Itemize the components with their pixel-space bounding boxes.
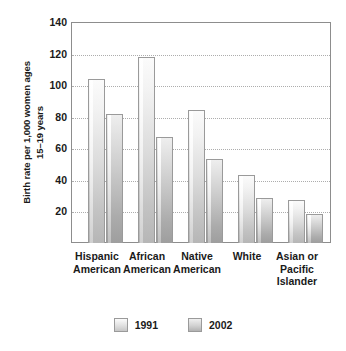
bar-chart: Birth rate per 1,000 women ages 15–19 ye… — [0, 0, 346, 351]
bar-asian-or-pacific-islander-1991[interactable] — [288, 200, 305, 243]
legend-item-1991[interactable]: 1991 — [114, 318, 158, 332]
x-label-line: American — [159, 263, 235, 276]
y-tick-60: 60 — [27, 143, 67, 154]
bar-asian-or-pacific-islander-2002[interactable] — [306, 214, 323, 243]
y-tick-100: 100 — [27, 80, 67, 91]
legend-swatch-icon-2002 — [188, 318, 202, 332]
y-tick-20: 20 — [27, 206, 67, 217]
bar-native-american-2002[interactable] — [206, 159, 223, 243]
x-label-asian-or-pacific-islander: Asian or Pacific Islander — [259, 250, 335, 288]
x-label-line: Asian or — [259, 250, 335, 263]
y-tick-120: 120 — [27, 49, 67, 60]
bars-layer — [71, 22, 331, 243]
legend-label-1991: 1991 — [135, 319, 158, 331]
y-tick-140: 140 — [27, 17, 67, 28]
x-axis-category-labels: Hispanic American African American Nativ… — [71, 250, 331, 310]
bar-african-american-2002[interactable] — [156, 137, 173, 243]
bar-hispanic-american-1991[interactable] — [88, 79, 105, 243]
y-tick-40: 40 — [27, 175, 67, 186]
bar-native-american-1991[interactable] — [188, 110, 205, 243]
bar-white-1991[interactable] — [238, 175, 255, 243]
bar-white-2002[interactable] — [256, 198, 273, 243]
bar-hispanic-american-2002[interactable] — [106, 114, 123, 243]
bar-african-american-1991[interactable] — [138, 57, 155, 243]
y-tick-80: 80 — [27, 112, 67, 123]
legend-label-2002: 2002 — [209, 319, 232, 331]
x-label-line: Pacific — [259, 263, 335, 276]
x-label-line: Islander — [259, 275, 335, 288]
legend-item-2002[interactable]: 2002 — [188, 318, 232, 332]
chart-legend: 1991 2002 — [0, 318, 346, 332]
legend-swatch-icon-1991 — [114, 318, 128, 332]
